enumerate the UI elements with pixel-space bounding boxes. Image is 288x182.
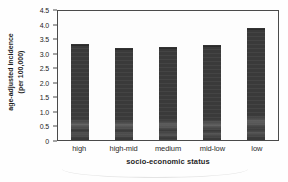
y-tick-label: 2.5 — [40, 65, 49, 72]
y-tick-label: 4.0 — [40, 21, 49, 28]
x-tick-label-mid-low: mid-low — [200, 144, 225, 153]
x-tick-label-medium: medium — [155, 144, 181, 153]
bar-medium — [159, 47, 177, 140]
bar-low — [247, 28, 265, 140]
y-tick-label: 1.5 — [40, 94, 49, 101]
bar-chart-figure: age-adjusted incidence (per 100,000) 4.5… — [0, 0, 288, 182]
scan-artifact-line — [62, 169, 248, 178]
y-tick-label: 0.5 — [40, 123, 49, 130]
y-axis-title-line2: (per 100,000) — [16, 16, 26, 128]
y-tick-label: 2.0 — [40, 79, 49, 86]
plot-area — [57, 10, 279, 141]
y-tick-label: 3.5 — [40, 36, 49, 43]
x-axis-labels: highhigh-midmediummid-lowlow — [57, 144, 279, 155]
bar-high-mid — [115, 48, 133, 140]
bar-mid-low — [203, 45, 221, 140]
x-axis-title: socio-economic status — [57, 157, 279, 166]
y-axis-ticks: 4.54.03.53.02.52.01.51.00.50 — [30, 10, 57, 141]
y-tick-label: 0 — [45, 138, 49, 145]
x-tick-label-high: high — [72, 144, 86, 153]
x-tick-label-high-mid: high-mid — [110, 144, 138, 153]
y-tick-label: 3.0 — [40, 50, 49, 57]
y-axis-title-line1: age-adjusted incidence — [6, 16, 16, 128]
x-tick-label-low: low — [251, 144, 262, 153]
y-tick-label: 1.0 — [40, 108, 49, 115]
y-tick-label: 4.5 — [40, 7, 49, 14]
bar-high — [71, 44, 89, 140]
y-axis-title: age-adjusted incidence (per 100,000) — [6, 16, 28, 128]
